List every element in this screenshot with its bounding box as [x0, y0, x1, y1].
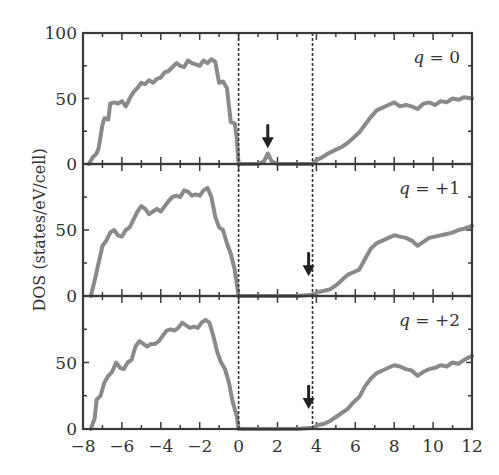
dos-curve-conduction-band — [313, 226, 473, 295]
x-tick-label: −2 — [187, 436, 212, 456]
x-tick-label: 0 — [233, 436, 244, 456]
dos-curve-valence-band — [91, 320, 239, 429]
x-tick-label: 6 — [350, 436, 361, 456]
panel-charge-label: q = +1 — [399, 178, 460, 198]
x-tick-label: 12 — [461, 436, 483, 456]
charge-variable: q — [413, 47, 429, 67]
x-tick-label: −4 — [148, 436, 173, 456]
x-tick-label: 8 — [389, 436, 400, 456]
down-arrow-icon — [262, 124, 274, 148]
panel-charge-label: q = 0 — [413, 47, 460, 67]
y-tick-label: 50 — [55, 353, 77, 373]
y-tick-label: 100 — [45, 23, 77, 43]
panel-1: 050100q = 0 — [45, 23, 472, 174]
charge-value: = +2 — [415, 310, 460, 330]
panel-2: 050q = +1 — [55, 164, 472, 306]
dos-curve-conduction-band — [313, 356, 473, 428]
y-tick-label: 50 — [55, 89, 77, 109]
panels-group: 050100q = 0050q = +1050q = +2 — [45, 23, 472, 439]
arrow-head — [262, 137, 274, 148]
dos-curve-valence-band — [89, 59, 239, 164]
charge-variable: q — [399, 178, 415, 198]
x-tick-label: −8 — [70, 436, 95, 456]
y-tick-label: 50 — [55, 220, 77, 240]
x-tick-label: 2 — [272, 436, 283, 456]
dos-curve-defect-state — [239, 154, 313, 165]
charge-variable: q — [399, 310, 415, 330]
dos-curve-valence-band — [91, 188, 239, 296]
x-axis: −8−6−4−2024681012 — [70, 436, 482, 456]
x-tick-label: 10 — [422, 436, 444, 456]
charge-value: = 0 — [430, 47, 460, 67]
dos-curve-conduction-band — [313, 97, 473, 164]
y-tick-label: 0 — [66, 286, 77, 306]
x-tick-label: −6 — [109, 436, 134, 456]
x-tick-label: 4 — [311, 436, 322, 456]
dos-figure: DOS (states/eV/cell) 050100q = 0050q = +… — [0, 0, 499, 475]
y-tick-label: 0 — [66, 154, 77, 174]
panel-charge-label: q = +2 — [399, 310, 460, 330]
y-axis-label: DOS (states/eV/cell) — [30, 148, 49, 311]
panel-3: 050q = +2 — [55, 296, 472, 439]
charge-value: = +1 — [415, 178, 460, 198]
